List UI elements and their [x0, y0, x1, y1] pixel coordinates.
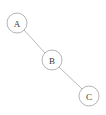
- edge-a-b: [24, 30, 45, 53]
- node-group: A B C: [7, 13, 99, 106]
- node-b[interactable]: B: [42, 50, 62, 70]
- node-a[interactable]: A: [7, 13, 27, 33]
- tree-diagram-svg: A B C: [0, 0, 106, 115]
- edge-b-c: [59, 67, 82, 89]
- tree-diagram-canvas: A B C: [0, 0, 106, 115]
- node-b-label: B: [49, 56, 55, 66]
- node-c-label: C: [86, 92, 92, 102]
- node-a-label: A: [14, 19, 21, 29]
- node-c[interactable]: C: [79, 86, 99, 106]
